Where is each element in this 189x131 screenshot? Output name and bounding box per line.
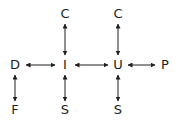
node-d: D [5, 57, 25, 73]
node-p: P [155, 57, 175, 73]
node-s-bottom-left: S [55, 102, 75, 118]
node-c-top-right: C [108, 6, 128, 22]
node-c-top-left: C [55, 6, 75, 22]
node-s-bottom-right: S [108, 102, 128, 118]
diagram-canvas: CCDIUPFSS [0, 0, 189, 131]
node-i: I [55, 57, 75, 73]
node-u: U [108, 57, 128, 73]
node-f: F [5, 102, 25, 118]
